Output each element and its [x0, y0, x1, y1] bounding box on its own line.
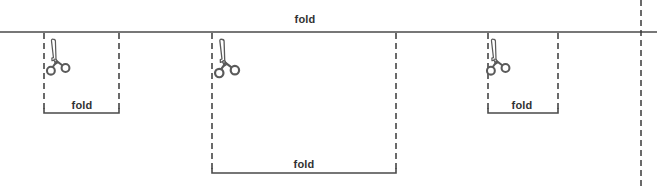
left-fold-label: fold — [72, 99, 93, 111]
scissors-icon — [215, 39, 239, 77]
scissors-icon — [487, 39, 509, 75]
top-fold-label: fold — [295, 13, 316, 25]
scissors-icon — [47, 39, 69, 75]
right-fold-label: fold — [512, 99, 533, 111]
center-cut-region — [212, 33, 396, 173]
diagram-svg — [0, 0, 657, 186]
center-fold-label: fold — [294, 158, 315, 170]
fold-cut-diagram: fold fold fold fold — [0, 0, 657, 186]
